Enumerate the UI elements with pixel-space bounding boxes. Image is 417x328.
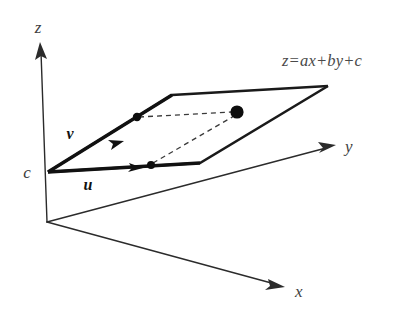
intercept-label-c: c bbox=[23, 163, 31, 182]
z-axis-line bbox=[41, 52, 47, 222]
x-axis-line bbox=[47, 222, 275, 284]
x-axis-arrowhead bbox=[265, 279, 285, 290]
x-axis bbox=[47, 222, 285, 290]
point-sum-uv bbox=[230, 105, 243, 118]
point-on-u bbox=[147, 161, 155, 169]
x-axis-label: x bbox=[294, 282, 303, 301]
vector-v-label: v bbox=[66, 125, 74, 142]
plane-equation-diagram: z y x c u v z=ax+by+c bbox=[0, 0, 417, 328]
point-on-v bbox=[133, 113, 141, 121]
z-axis-label: z bbox=[34, 18, 42, 37]
y-axis-arrowhead bbox=[318, 142, 336, 153]
vector-u-label: u bbox=[84, 176, 93, 193]
z-axis bbox=[35, 42, 47, 222]
diagram-canvas: z y x c u v z=ax+by+c bbox=[0, 0, 417, 328]
plane-equation-label: z=ax+by+c bbox=[281, 51, 363, 70]
y-axis-label: y bbox=[343, 137, 353, 156]
